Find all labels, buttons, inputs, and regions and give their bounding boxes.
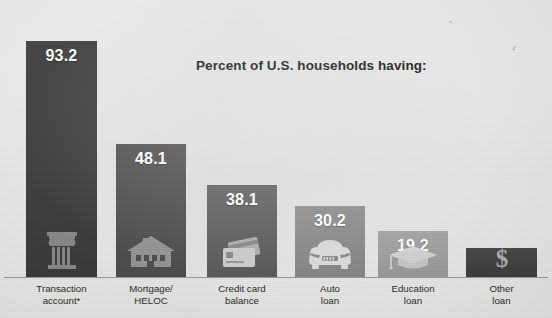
category-label-auto-loan: Auto loan — [295, 283, 365, 306]
bar-credit-card-balance[interactable]: 38.1 — [207, 185, 277, 277]
chart-title: Percent of U.S. households having: — [196, 58, 427, 73]
graduation-cap-icon — [387, 244, 439, 274]
bar-chart: Percent of U.S. households having: 93.2 — [0, 0, 552, 318]
bar-value-label: 38.1 — [207, 191, 277, 209]
bar-transaction-account[interactable]: 93.2 — [26, 41, 97, 277]
bar-education-loan[interactable]: 19.2 — [378, 231, 448, 277]
category-label-credit-card-balance: Credit card balance — [207, 283, 277, 306]
category-label-education-loan: Education loan — [378, 283, 448, 306]
car-icon — [305, 236, 355, 274]
category-label-mortgage-heloc: Mortgage/ HELOC — [116, 283, 186, 306]
bar-auto-loan[interactable]: 30.2 — [295, 206, 365, 277]
bar-other-loan[interactable]: 11.5 $ — [466, 248, 537, 277]
category-label-other-loan: Other loan — [466, 283, 537, 306]
svg-text:$: $ — [495, 248, 508, 272]
bar-mortgage-heloc[interactable]: 48.1 — [116, 144, 186, 277]
axis-baseline — [4, 277, 548, 278]
bar-value-label: 30.2 — [295, 212, 365, 230]
house-icon — [123, 234, 179, 274]
category-label-transaction-account: Transaction account* — [26, 283, 97, 306]
bar-value-label: 48.1 — [116, 150, 186, 168]
credit-card-icon — [218, 236, 266, 274]
bar-value-label: 93.2 — [26, 47, 97, 65]
bank-column-icon — [42, 226, 82, 274]
plot-area: Percent of U.S. households having: 93.2 — [0, 0, 552, 318]
dollar-sign-icon: $ — [489, 248, 515, 276]
